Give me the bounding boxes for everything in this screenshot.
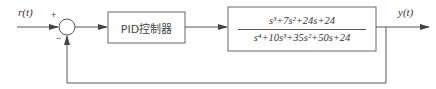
pid-controller-label: PID控制器 <box>108 12 185 43</box>
minus-sign: − <box>56 33 61 43</box>
output-label: y(t) <box>398 6 413 18</box>
plant-transfer-function: s³+7s²+24s+24 s⁴+10s³+35s²+50s+24 <box>228 7 376 51</box>
transfer-function-numerator: s³+7s²+24s+24 <box>269 15 335 27</box>
summing-junction <box>59 19 75 35</box>
transfer-function-denominator: s⁴+10s³+35s²+50s+24 <box>254 32 351 44</box>
plus-sign: + <box>51 10 56 20</box>
fraction-bar <box>238 29 366 30</box>
input-label: r(t) <box>18 6 33 18</box>
